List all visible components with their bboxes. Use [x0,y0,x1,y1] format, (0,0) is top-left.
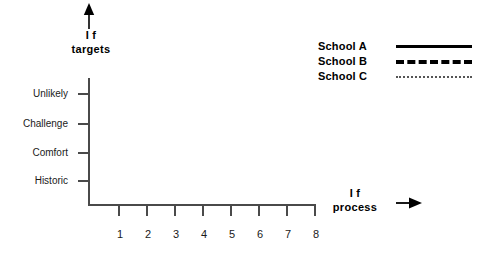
x-axis-tick-label-6: 6 [250,228,270,240]
x-axis-tick [286,206,288,216]
y-axis-tick [78,123,89,125]
x-axis-tick-label-5: 5 [222,228,242,240]
legend-swatch-dashed-line [396,60,472,68]
y-axis-tick [78,152,89,154]
chart-canvas: I f targets I f process Unlikely Challen… [0,0,480,256]
y-axis-line [88,78,90,206]
y-axis-tick-label-comfort: Comfort [0,147,68,158]
x-axis-tick [314,206,316,216]
y-axis-title: I f targets [36,28,146,56]
x-axis-tick [146,206,148,216]
x-axis-tick [174,206,176,216]
legend-label-school-c: School C [318,69,367,83]
x-axis-tick-label-3: 3 [166,228,186,240]
legend-label-school-b: School B [318,54,367,68]
y-axis-tick [78,180,89,182]
x-axis-title-line2: process [318,200,392,214]
x-axis-tick-label-7: 7 [278,228,298,240]
x-axis-tick [118,206,120,216]
y-axis-tick-label-unlikely: Unlikely [0,88,68,99]
legend-item-school-b[interactable]: School B [318,54,476,69]
legend-swatch-solid-line [396,45,472,52]
x-axis-tick-label-8: 8 [306,228,326,240]
legend-swatch-dotted-line [396,76,472,82]
x-axis-tick [230,206,232,216]
legend-item-school-c[interactable]: School C [318,69,476,84]
x-axis-tick-label-1: 1 [110,228,130,240]
y-axis-title-line1: I f [36,28,146,42]
y-axis-tick [78,93,89,95]
y-axis-arrow-icon [82,3,96,29]
y-axis-tick-label-historic: Historic [0,175,68,186]
x-axis-arrow-icon [396,196,422,210]
legend-item-school-a[interactable]: School A [318,39,476,54]
legend-label-school-a: School A [318,39,367,53]
x-axis-tick [202,206,204,216]
legend: School A School B School C [318,39,476,84]
y-axis-tick-label-challenge: Challenge [0,118,68,129]
x-axis-title: I f process [318,186,392,214]
x-axis-tick-label-2: 2 [138,228,158,240]
x-axis-title-line1: I f [318,186,392,200]
y-axis-title-line2: targets [36,42,146,56]
x-axis-tick [258,206,260,216]
x-axis-tick-label-4: 4 [194,228,214,240]
